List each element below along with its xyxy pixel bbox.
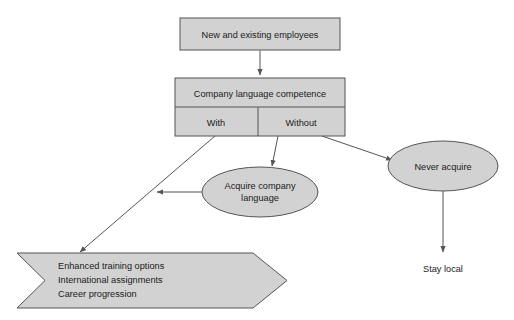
node-with-cell[interactable]: With — [207, 118, 225, 128]
competence-box-label: Company language competence — [194, 89, 326, 99]
node-never-acquire-ellipse[interactable]: Never acquire — [388, 141, 498, 191]
connector-without-to-acquire — [272, 136, 278, 166]
employees-box-label: New and existing employees — [202, 30, 319, 40]
stay-local-label: Stay local — [423, 264, 463, 274]
node-stay-local: Stay local — [423, 264, 463, 274]
without-cell-label: Without — [285, 118, 317, 128]
acquire-ellipse-label-line1: Acquire company — [225, 181, 296, 191]
flowchart-svg: New and existing employees Company langu… — [0, 0, 514, 320]
outcomes-banner-label-line1: Enhanced training options — [58, 261, 165, 271]
connector-without-to-never-acquire — [322, 136, 392, 160]
never-acquire-ellipse-label: Never acquire — [414, 162, 471, 172]
node-outcomes-banner[interactable]: Enhanced training options International … — [17, 253, 287, 308]
with-cell-label: With — [207, 118, 225, 128]
acquire-ellipse-label-line2: language — [241, 193, 279, 203]
node-without-cell[interactable]: Without — [285, 118, 317, 128]
flowchart-canvas: New and existing employees Company langu… — [0, 0, 514, 320]
connector-with-to-outcomes — [80, 136, 215, 252]
outcomes-banner-label-line3: Career progression — [58, 289, 137, 299]
node-competence-box[interactable]: Company language competence — [175, 78, 345, 136]
node-employees-box[interactable]: New and existing employees — [180, 18, 340, 50]
node-acquire-ellipse[interactable]: Acquire company language — [202, 167, 318, 217]
outcomes-banner-label-line2: International assignments — [58, 275, 163, 285]
